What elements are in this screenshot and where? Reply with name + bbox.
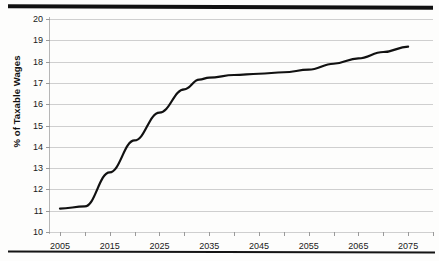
x-tick-label-2075: 2075 bbox=[398, 241, 418, 251]
x-tick-label-2065: 2065 bbox=[348, 241, 368, 251]
y-tick-label-13: 13 bbox=[33, 163, 43, 173]
gridline-y-10 bbox=[50, 232, 433, 233]
bottom-rule-divider bbox=[8, 250, 435, 253]
x-tick-2010 bbox=[85, 232, 86, 236]
x-tick-2020 bbox=[135, 232, 136, 236]
x-tick-2025 bbox=[159, 232, 160, 236]
x-tick-2060 bbox=[334, 232, 335, 236]
x-tick-label-2055: 2055 bbox=[299, 241, 319, 251]
x-tick-2005 bbox=[60, 232, 61, 236]
top-rule-divider bbox=[8, 4, 433, 10]
x-tick-2055 bbox=[309, 232, 310, 236]
y-tick-label-18: 18 bbox=[33, 57, 43, 67]
plot-area: 2019181716151413121110 20052015202520352… bbox=[50, 19, 433, 232]
x-tick-2075 bbox=[408, 232, 409, 236]
x-tick-label-2015: 2015 bbox=[100, 241, 120, 251]
data-series-line bbox=[50, 19, 433, 232]
x-tick-2080 bbox=[433, 232, 434, 236]
chart-figure: % of Taxable Wages 201918171615141312111… bbox=[0, 0, 439, 261]
y-tick-label-14: 14 bbox=[33, 142, 43, 152]
x-tick-2050 bbox=[284, 232, 285, 236]
y-tick-label-15: 15 bbox=[33, 121, 43, 131]
x-tick-label-2025: 2025 bbox=[149, 241, 169, 251]
x-tick-label-2005: 2005 bbox=[50, 241, 70, 251]
y-tick-label-20: 20 bbox=[33, 14, 43, 24]
x-tick-2015 bbox=[110, 232, 111, 236]
x-tick-2035 bbox=[209, 232, 210, 236]
y-tick-label-19: 19 bbox=[33, 35, 43, 45]
y-tick-label-17: 17 bbox=[33, 78, 43, 88]
y-tick-label-11: 11 bbox=[34, 206, 43, 216]
x-tick-2040 bbox=[234, 232, 235, 236]
series-path-0 bbox=[60, 47, 408, 209]
y-tick-label-16: 16 bbox=[33, 99, 43, 109]
x-tick-label-2035: 2035 bbox=[199, 241, 219, 251]
x-tick-label-2045: 2045 bbox=[249, 241, 269, 251]
x-tick-2030 bbox=[184, 232, 185, 236]
x-tick-2045 bbox=[259, 232, 260, 236]
x-tick-2070 bbox=[383, 232, 384, 236]
y-tick-10 bbox=[46, 232, 50, 233]
y-tick-label-10: 10 bbox=[33, 227, 43, 237]
y-axis-title: % of Taxable Wages bbox=[11, 32, 22, 172]
y-tick-label-12: 12 bbox=[33, 184, 43, 194]
x-tick-2065 bbox=[358, 232, 359, 236]
